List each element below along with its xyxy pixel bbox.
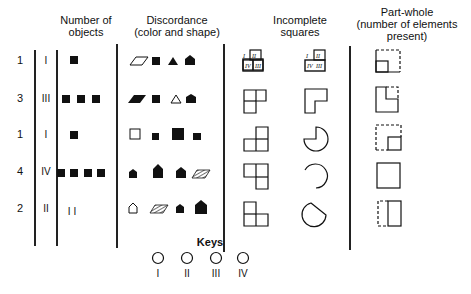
key-label: IV bbox=[233, 268, 253, 279]
circle-icon bbox=[153, 253, 164, 264]
circle-icon bbox=[238, 253, 249, 264]
key-label: I bbox=[148, 268, 168, 279]
key-label: II bbox=[177, 268, 197, 279]
key-label: III bbox=[206, 268, 226, 279]
circle-icon bbox=[182, 253, 193, 264]
circle-icon bbox=[211, 253, 222, 264]
keys-circles bbox=[0, 0, 471, 294]
